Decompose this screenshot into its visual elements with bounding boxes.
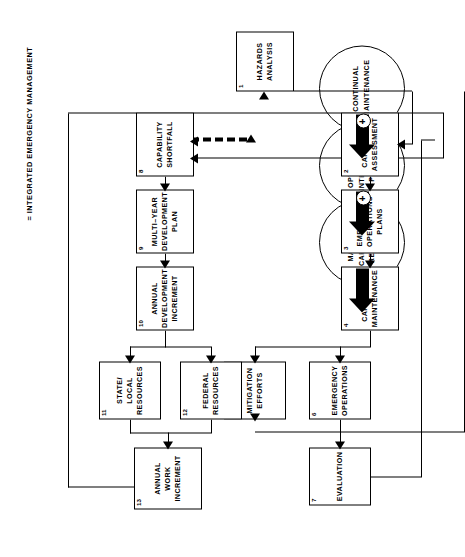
arrowhead-into-capability-assessment xyxy=(397,140,405,150)
connector-4-out xyxy=(370,330,371,347)
arrowhead-into-annual-work-increment xyxy=(163,441,173,449)
arrowhead-into-capability-shortfall xyxy=(190,137,198,147)
box-label-state-local-resources: STATE/ LOCAL RESOURCES xyxy=(115,364,146,417)
box-multi-year-development-plan[interactable]: 9 MULTI–YEAR DEVELOPMENT PLAN xyxy=(136,189,194,253)
connector-10-split-v xyxy=(130,346,211,347)
connector-7-feedback-v xyxy=(371,476,421,477)
arrowhead-spine-into-mitigation xyxy=(250,413,260,421)
box-label-annual-work-increment: ANNUAL WORK INCREMENT xyxy=(153,453,184,503)
spine-left-v xyxy=(255,431,464,432)
box-emergency-operations[interactable]: 6 EMERGENCY OPERATIONS xyxy=(309,361,371,419)
connector-12-out xyxy=(211,419,212,433)
connector-13-out-h xyxy=(68,113,69,487)
box-number-11: 11 xyxy=(101,409,107,416)
box-label-annual-development-increment: ANNUAL DEVELOPMENT INCREMENT xyxy=(150,267,181,330)
arrowhead-into-emergency-operations xyxy=(335,355,345,363)
arrowhead-into-annual-development-increment xyxy=(160,260,170,268)
box-hazards-analysis[interactable]: 1 HAZARDS ANALYSIS xyxy=(236,31,294,91)
box-number-1: 1 xyxy=(238,84,244,87)
box-number-3: 3 xyxy=(343,246,349,249)
connector-10-out xyxy=(165,330,166,347)
plus-sign-1: + xyxy=(356,191,371,206)
arrowhead-into-capability-shortfall-feedback xyxy=(190,154,198,164)
box-number-8: 8 xyxy=(138,169,144,172)
connector-11-out xyxy=(130,419,131,433)
arrowhead-into-hazards-analysis-left xyxy=(259,91,269,99)
connector-7-feedback-v2 xyxy=(421,139,435,140)
box-capability-shortfall[interactable]: 8 CAPABILITY SHORTFALL xyxy=(136,112,194,176)
box-label-emergency-operations: EMERGENCY OPERATIONS xyxy=(330,363,351,418)
legend-text: = INTEGRATED EMERGENCY MANAGEMENT xyxy=(25,46,34,220)
block-arrow-to-maximum-capability xyxy=(349,268,375,312)
box-label-hazards-analysis: HAZARDS ANALYSIS xyxy=(255,40,276,83)
arrowhead-into-evaluation xyxy=(335,441,345,449)
arrowhead-into-capability-maintenance xyxy=(365,260,375,268)
box-number-2: 2 xyxy=(343,169,349,172)
box-state-local-resources[interactable]: 11 STATE/ LOCAL RESOURCES xyxy=(99,361,161,419)
arrowhead-into-multi-year-plan xyxy=(160,183,170,191)
box-federal-resources[interactable]: 12 FEDERAL RESOURCES xyxy=(180,361,242,419)
box-label-capability-shortfall: CAPABILITY SHORTFALL xyxy=(155,119,176,170)
box-number-10: 10 xyxy=(138,320,144,327)
arrowhead-into-emergency-operations-plans xyxy=(365,183,375,191)
connector-7-feedback-h xyxy=(421,140,422,477)
arrowhead-into-mitigation-efforts xyxy=(250,355,260,363)
box-number-4: 4 xyxy=(343,323,349,326)
connector-11-12-merge-v xyxy=(130,432,211,433)
box-number-7: 7 xyxy=(311,498,317,501)
circle-label-continual-maintenance: CONTINUAL MAINTENANCE xyxy=(351,59,372,117)
box-annual-work-increment[interactable]: 13 ANNUAL WORK INCREMENT xyxy=(134,447,202,509)
connector-13-back-v xyxy=(194,157,443,158)
plus-sign-2: + xyxy=(356,114,371,129)
box-evaluation[interactable]: 7 EVALUATION xyxy=(309,447,371,505)
connector-4-split-v xyxy=(255,346,370,347)
box-label-federal-resources: FEDERAL RESOURCES xyxy=(201,364,222,417)
box-label-evaluation: EVALUATION xyxy=(335,449,345,503)
connector-13-out-v xyxy=(68,486,134,487)
box-annual-development-increment[interactable]: 10 ANNUAL DEVELOPMENT INCREMENT xyxy=(136,266,194,330)
box-number-6: 6 xyxy=(311,412,317,415)
connector-2-feed-h xyxy=(412,111,413,144)
arrowhead-into-state-local-resources xyxy=(125,355,135,363)
box-label-multi-year-development-plan: MULTI–YEAR DEVELOPMENT PLAN xyxy=(150,190,181,253)
box-label-mitigation-efforts: MITIGATION EFFORTS xyxy=(245,365,266,415)
connector-1-to-2-h xyxy=(412,91,413,112)
arrowhead-spine-into-hazards-analysis xyxy=(246,134,256,142)
arrowhead-into-federal-resources xyxy=(206,355,216,363)
box-number-9: 9 xyxy=(138,246,144,249)
connector-13-back-h xyxy=(443,112,444,158)
box-number-13: 13 xyxy=(136,499,142,506)
box-number-12: 12 xyxy=(182,409,188,416)
